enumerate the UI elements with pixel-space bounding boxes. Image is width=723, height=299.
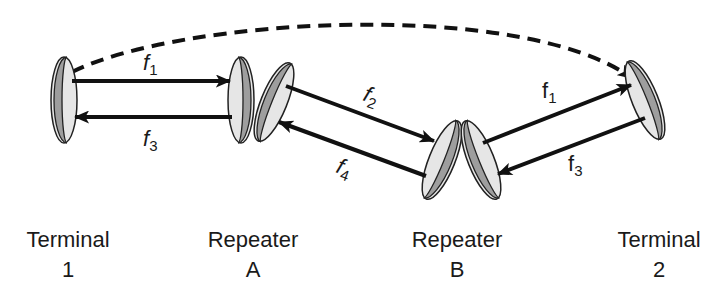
node-label-repeater-a: Repeater A (193, 225, 313, 285)
freq-label-t2-rb-f3: f3 (568, 151, 582, 179)
node-label-repeater-a-line1: Repeater (193, 225, 313, 255)
terminal-2-dish-icon (617, 56, 673, 144)
node-label-repeater-b-line2: B (397, 255, 517, 285)
node-label-repeater-a-line2: A (193, 255, 313, 285)
terminal-1-dish-icon (51, 57, 77, 143)
node-label-terminal-1-line1: Terminal (8, 225, 128, 255)
freq-label-t1-ra-f1: f1 (143, 50, 157, 78)
node-label-terminal-2: Terminal 2 (599, 225, 719, 285)
node-label-terminal-2-line2: 2 (599, 255, 719, 285)
node-label-terminal-2-line1: Terminal (599, 225, 719, 255)
freq-label-ra-t1-f3: f3 (143, 126, 157, 154)
repeater-a-dish-west-icon (228, 57, 254, 143)
repeater-b-dish-east-icon (453, 116, 509, 204)
node-label-terminal-1-line2: 1 (8, 255, 128, 285)
freq-label-rb-ra-f4: f4 (332, 153, 355, 184)
node-label-terminal-1: Terminal 1 (8, 225, 128, 285)
node-label-repeater-b: Repeater B (397, 225, 517, 285)
freq-label-ra-rb-f2: f2 (359, 81, 382, 112)
link-rb-to-t2-f1 (483, 85, 631, 143)
freq-label-rb-t2-f1: f1 (542, 78, 556, 106)
node-label-repeater-b-line1: Repeater (397, 225, 517, 255)
